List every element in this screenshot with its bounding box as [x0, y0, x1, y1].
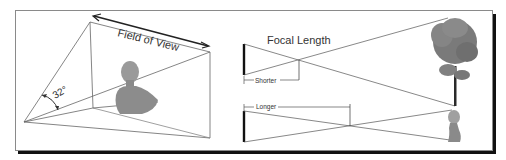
- far-plane-bottom-edge: [93, 108, 210, 138]
- angle-label: 32°: [51, 84, 70, 101]
- frustum-edge-top-right: [24, 52, 210, 122]
- tree-figure: [431, 18, 478, 106]
- angle-indicator: 32°: [42, 84, 69, 110]
- tree-foliage: [431, 18, 478, 80]
- far-plane-left-edge: [90, 22, 93, 108]
- shorter-label: Shorter: [255, 77, 277, 84]
- ray-bottom-to-top: [244, 18, 448, 75]
- longer-label: Longer: [256, 103, 277, 111]
- ray-top-to-bottom: [244, 44, 455, 106]
- ray-bottom-to-top: [244, 110, 452, 142]
- frustum-edge-bottom-right: [24, 122, 210, 138]
- diagram-canvas: 32° Field of View Focal Length Shorter L…: [0, 0, 506, 160]
- shorter-focal-diagram: [244, 18, 455, 106]
- focal-length-title: Focal Length: [267, 34, 331, 46]
- bust-figure-left: [116, 61, 159, 114]
- bust-figure-right: [448, 110, 461, 142]
- frustum-edge-bottom-left: [24, 108, 93, 122]
